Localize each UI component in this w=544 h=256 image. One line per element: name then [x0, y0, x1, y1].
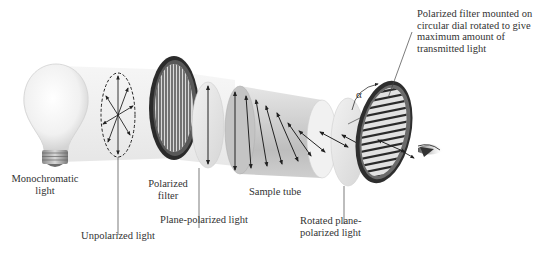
label-line: Unpolarized light	[76, 230, 160, 242]
label-analyzer-filter: Polarized filter mounted on circular dia…	[417, 8, 532, 54]
label-line: polarized light	[300, 227, 362, 239]
plane-polarized-disc	[192, 82, 224, 228]
label-plane-polarized-light: Plane-polarized light	[154, 214, 254, 226]
label-line: Polarized	[143, 178, 193, 190]
label-sample-tube: Sample tube	[240, 186, 310, 198]
label-line: Rotated plane-	[300, 215, 362, 227]
label-line: light	[10, 185, 80, 197]
label-polarized-filter: Polarized filter	[143, 178, 193, 202]
label-line: Plane-polarized light	[154, 214, 254, 226]
polarizer-filter	[149, 56, 199, 160]
label-alpha-angle: α	[352, 88, 366, 100]
label-unpolarized-light: Unpolarized light	[76, 230, 160, 242]
polarimeter-diagram: Monochromatic light Unpolarized light Po…	[0, 0, 544, 256]
label-line: Monochromatic	[10, 173, 80, 185]
label-line: filter	[143, 190, 193, 202]
label-line: transmitted light	[417, 43, 532, 55]
label-monochromatic-light: Monochromatic light	[10, 173, 80, 197]
alpha-symbol: α	[356, 88, 362, 100]
label-line: Sample tube	[240, 186, 310, 198]
label-line: circular dial rotated to give	[417, 20, 532, 32]
label-line: maximum amount of	[417, 31, 532, 43]
label-rotated-plane-polarized-light: Rotated plane- polarized light	[300, 215, 362, 239]
eye-icon	[418, 144, 444, 157]
label-line: Polarized filter mounted on	[417, 8, 532, 20]
